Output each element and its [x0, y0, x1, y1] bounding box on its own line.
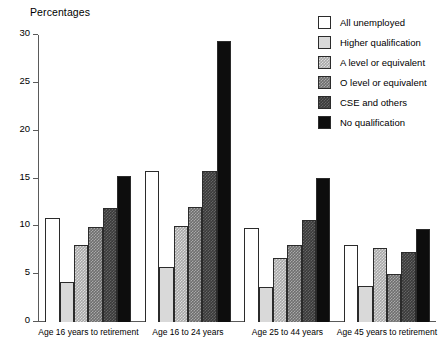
- bar-group: Age 16 to 24 years: [145, 35, 231, 322]
- bar-group-bars: [45, 35, 131, 322]
- legend-label: All unemployed: [340, 17, 405, 28]
- bar[interactable]: [117, 176, 131, 322]
- bar-chart: Percentages 051015202530 Age 16 years to…: [0, 0, 443, 351]
- legend-label: No qualification: [340, 117, 405, 128]
- y-tick: 5: [33, 273, 38, 274]
- bar[interactable]: [387, 274, 401, 322]
- x-axis-group-label: Age 25 to 44 years: [252, 327, 323, 337]
- y-tick: 25: [33, 82, 38, 83]
- legend-swatch: [318, 116, 331, 129]
- y-tick-label: 15: [19, 171, 30, 182]
- bar[interactable]: [202, 171, 216, 322]
- bar[interactable]: [174, 226, 188, 322]
- y-axis-title: Percentages: [30, 6, 90, 18]
- legend-item[interactable]: CSE and others: [318, 92, 443, 112]
- y-tick: 20: [33, 130, 38, 131]
- legend-item[interactable]: O level or equivalent: [318, 72, 443, 92]
- legend-label: CSE and others: [340, 97, 407, 108]
- legend-label: Higher qualification: [340, 37, 421, 48]
- bar[interactable]: [159, 267, 173, 322]
- x-axis-group-label: Age 16 years to retirement: [38, 327, 138, 337]
- bar[interactable]: [188, 207, 202, 322]
- y-tick: 15: [33, 178, 38, 179]
- bar[interactable]: [401, 252, 415, 322]
- bar[interactable]: [259, 287, 273, 322]
- bar[interactable]: [74, 245, 88, 322]
- bar[interactable]: [244, 228, 258, 322]
- bar[interactable]: [416, 229, 430, 322]
- y-tick: 0: [33, 321, 38, 322]
- bar[interactable]: [45, 218, 59, 322]
- legend-swatch: [318, 76, 331, 89]
- bar[interactable]: [344, 245, 358, 322]
- bar[interactable]: [88, 227, 102, 322]
- y-tick: 30: [33, 34, 38, 35]
- y-axis-line: [38, 35, 39, 322]
- bar[interactable]: [60, 282, 74, 322]
- bar[interactable]: [287, 245, 301, 322]
- y-tick-label: 5: [25, 266, 30, 277]
- bar[interactable]: [358, 286, 372, 322]
- legend-item[interactable]: All unemployed: [318, 12, 443, 32]
- legend-label: O level or equivalent: [340, 77, 427, 88]
- y-tick-label: 20: [19, 123, 30, 134]
- y-tick-label: 10: [19, 218, 30, 229]
- bar[interactable]: [302, 220, 316, 322]
- y-tick-label: 30: [19, 27, 30, 38]
- bar[interactable]: [103, 208, 117, 322]
- bar[interactable]: [373, 248, 387, 322]
- legend-swatch: [318, 96, 331, 109]
- legend-swatch: [318, 56, 331, 69]
- bar[interactable]: [316, 178, 330, 322]
- bar[interactable]: [273, 258, 287, 322]
- legend-swatch: [318, 16, 331, 29]
- legend: All unemployedHigher qualificationA leve…: [318, 12, 443, 132]
- bar[interactable]: [145, 171, 159, 322]
- legend-item[interactable]: No qualification: [318, 112, 443, 132]
- x-axis-group-label: Age 16 to 24 years: [152, 327, 223, 337]
- bar-group: Age 16 years to retirement: [45, 35, 131, 322]
- x-axis-group-label: Age 45 years to retirement: [337, 327, 437, 337]
- bar-group-bars: [145, 35, 231, 322]
- legend-swatch: [318, 36, 331, 49]
- y-tick-label: 0: [25, 314, 30, 325]
- y-tick-label: 25: [19, 75, 30, 86]
- legend-item[interactable]: A level or equivalent: [318, 52, 443, 72]
- legend-label: A level or equivalent: [340, 57, 425, 68]
- bar[interactable]: [217, 41, 231, 322]
- legend-item[interactable]: Higher qualification: [318, 32, 443, 52]
- y-tick: 10: [33, 225, 38, 226]
